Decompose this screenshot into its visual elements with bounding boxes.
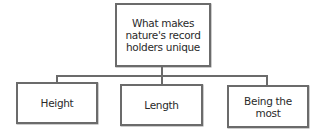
child-node-label: Length bbox=[144, 99, 178, 111]
child-node-label: Height bbox=[41, 97, 74, 109]
child-node-length: Length bbox=[120, 84, 203, 126]
child-node-being-the-most: Being the most bbox=[227, 85, 309, 128]
root-node: What makes nature's record holders uniqu… bbox=[115, 3, 211, 67]
root-node-label: What makes nature's record holders uniqu… bbox=[123, 17, 203, 53]
child-node-label: Being the most bbox=[243, 95, 293, 119]
child-node-height: Height bbox=[16, 82, 98, 124]
